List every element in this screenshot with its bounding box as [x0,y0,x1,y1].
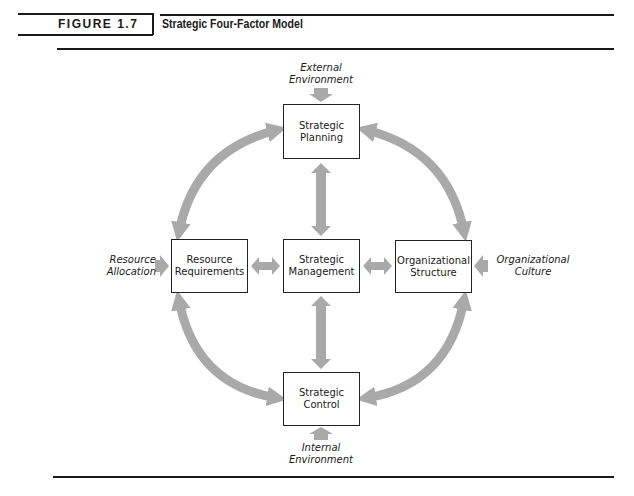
arrow-management-structure [363,257,392,275]
arrow-culture-in [474,255,488,277]
arrow-external-in [309,88,333,102]
label-external-environment: External Environment [271,62,371,86]
node-label: Structure [397,267,470,279]
label-resource-allocation: Resource Allocation [98,254,156,278]
node-strategic-planning: StrategicPlanning [283,104,360,159]
ext-label-line: Environment [271,454,371,466]
node-label: Organizational [397,255,470,267]
arc-planning-resource [179,130,277,232]
arrow-internal-in [309,427,333,440]
arrow-resource-management [251,257,280,275]
node-label: Control [299,399,344,411]
node-label: Requirements [175,266,245,278]
node-label: Strategic [299,387,344,399]
node-strategic-control: StrategicControl [283,372,360,426]
node-resource-requirements: ResourceRequirements [171,239,248,293]
arrow-planning-management [311,163,331,236]
ext-label-line: Internal [271,442,371,454]
node-label: Strategic [299,120,344,132]
arc-resource-control [179,300,277,398]
ext-label-line: External [271,62,371,74]
arrow-management-control [311,296,331,369]
label-organizational-culture: Organizational Culture [488,254,578,278]
arrow-resource-allocation-in [155,255,169,277]
node-organizational-structure: OrganizationalStructure [395,240,472,293]
node-label: Strategic [289,254,355,266]
node-strategic-management: StrategicManagement [283,239,360,293]
ext-label-line: Organizational [488,254,578,266]
node-label: Resource [175,254,245,266]
ext-label-line: Allocation [98,266,156,278]
arc-structure-control [366,300,464,398]
ext-label-line: Culture [488,266,578,278]
arc-planning-structure [366,130,464,232]
node-label: Management [289,266,355,278]
label-internal-environment: Internal Environment [271,442,371,466]
node-label: Planning [299,132,344,144]
ext-label-line: Resource [98,254,156,266]
ext-label-line: Environment [271,74,371,86]
